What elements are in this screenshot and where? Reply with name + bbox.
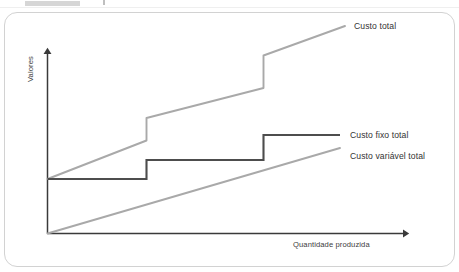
series-fixed-cost-line bbox=[48, 135, 341, 179]
x-axis-label: Quantidade produzida bbox=[293, 240, 370, 249]
label-custo-fixo-total: Custo fixo total bbox=[350, 130, 408, 140]
axis-group bbox=[48, 52, 406, 234]
cost-chart: Valores Quantidade produzida Custo total… bbox=[0, 0, 459, 272]
label-custo-total: Custo total bbox=[354, 21, 396, 31]
series-total-cost-line bbox=[48, 26, 346, 179]
label-custo-variavel-total: Custo variável total bbox=[350, 151, 425, 161]
y-axis-label: Valores bbox=[26, 56, 35, 82]
